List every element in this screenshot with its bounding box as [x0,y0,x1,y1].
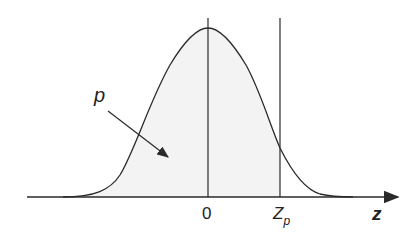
zp-main: Z [273,204,283,223]
shaded-area [63,28,280,197]
axis-label: z [372,203,382,225]
zp-subscript: p [283,214,290,228]
normal-distribution-diagram: 0 Zp z p [0,0,420,246]
area-label: p [94,84,105,107]
origin-label: 0 [202,204,211,224]
zp-label: Zp [273,204,290,226]
